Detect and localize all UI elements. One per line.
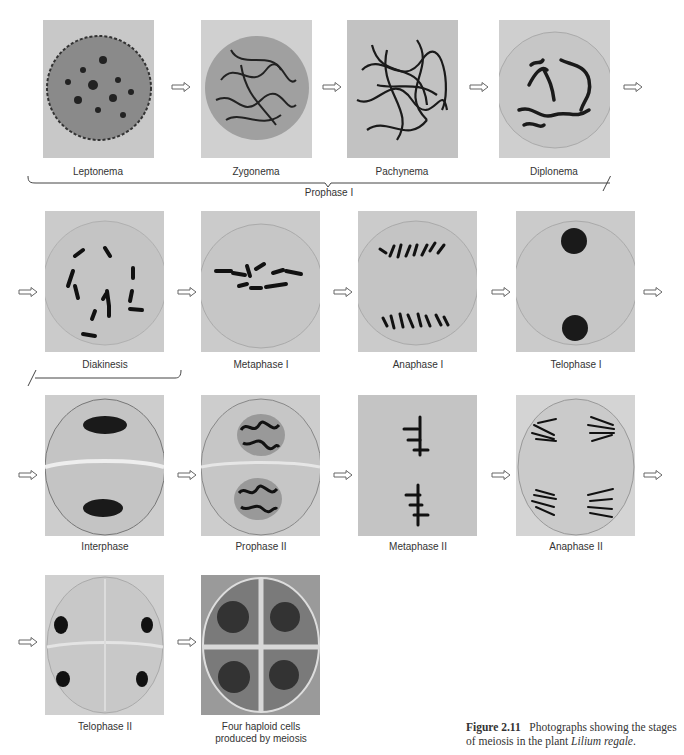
stage-label-metaphase-i: Metaphase I — [201, 359, 321, 371]
arrow-icon — [491, 287, 511, 297]
arrow-icon — [18, 637, 38, 647]
stage-label-telophase-ii: Telophase II — [45, 721, 165, 733]
photo-diakinesis — [45, 211, 164, 352]
group-label-prophase-i: Prophase I — [269, 187, 389, 199]
figure-number: Figure 2.11 — [466, 721, 521, 733]
photo-anaphase-ii — [516, 395, 635, 536]
photo-metaphase-i — [201, 211, 320, 352]
arrow-icon — [177, 637, 197, 647]
stage-label-four-haploid-cells-line2: produced by meiosis — [201, 733, 321, 745]
prophase-bracket-bottom — [25, 370, 190, 388]
photo-leptonema — [43, 20, 154, 158]
arrow-icon — [333, 470, 353, 480]
photo-pachynema — [347, 20, 458, 158]
stage-label-four-haploid-cells-line1: Four haploid cells — [201, 721, 321, 733]
stage-label-anaphase-ii: Anaphase II — [516, 541, 636, 553]
figure-caption: Figure 2.11 Photographs showing the stag… — [466, 720, 684, 748]
photo-anaphase-i — [358, 211, 477, 352]
arrow-icon — [643, 470, 663, 480]
arrow-icon — [491, 470, 511, 480]
photo-zygonema — [201, 20, 312, 158]
photo-metaphase-ii — [358, 395, 477, 536]
arrow-icon — [643, 287, 663, 297]
arrow-icon — [18, 470, 38, 480]
arrow-icon — [469, 82, 489, 92]
arrow-icon — [623, 82, 643, 92]
arrow-icon — [171, 82, 191, 92]
photo-diplonema — [499, 20, 610, 158]
arrow-icon — [18, 287, 38, 297]
stage-label-prophase-ii: Prophase II — [201, 541, 321, 553]
photo-prophase-ii — [201, 395, 320, 536]
stage-label-anaphase-i: Anaphase I — [358, 359, 478, 371]
photo-telophase-ii — [45, 575, 164, 715]
arrow-icon — [333, 287, 353, 297]
arrow-icon — [177, 287, 197, 297]
stage-label-metaphase-ii: Metaphase II — [358, 541, 478, 553]
photo-interphase — [45, 395, 164, 536]
caption-end: . — [633, 735, 636, 747]
stage-label-telophase-i: Telophase I — [516, 359, 636, 371]
stage-label-interphase: Interphase — [45, 541, 165, 553]
photo-four-haploid-cells — [201, 575, 320, 715]
arrow-icon — [177, 470, 197, 480]
caption-species: Lilium regale — [571, 735, 633, 747]
photo-telophase-i — [516, 211, 635, 352]
arrow-icon — [322, 82, 342, 92]
